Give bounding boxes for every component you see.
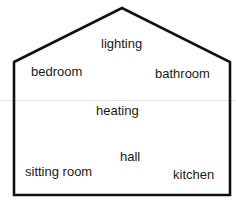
room-label-kitchen: kitchen — [173, 167, 214, 182]
room-label-sitting-room: sitting room — [25, 164, 92, 179]
house-diagram: lighting bedroom bathroom heating hall s… — [0, 0, 236, 202]
room-label-bedroom: bedroom — [31, 64, 82, 79]
room-label-heating: heating — [96, 103, 139, 118]
room-label-bathroom: bathroom — [155, 66, 210, 81]
room-label-hall: hall — [120, 149, 140, 164]
room-label-lighting: lighting — [101, 36, 142, 51]
